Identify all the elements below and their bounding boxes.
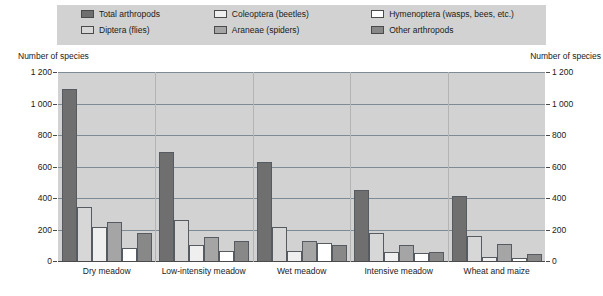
- y-axis-tick-left: [53, 198, 57, 199]
- bar-group: [253, 72, 350, 261]
- legend-item-diptera: Diptera (flies): [81, 25, 214, 35]
- bar-group: [350, 72, 447, 261]
- bar[interactable]: [332, 245, 347, 261]
- y-axis-tick-right: [546, 261, 550, 262]
- bar-set: [62, 72, 152, 261]
- legend-label: Total arthropods: [99, 9, 160, 19]
- bar[interactable]: [414, 253, 429, 261]
- y-axis-tick-right: [546, 72, 550, 73]
- y-axis-label-left: 800: [8, 130, 52, 140]
- bar[interactable]: [77, 207, 92, 261]
- y-axis-tick-left: [53, 135, 57, 136]
- y-axis-label-left: 400: [8, 193, 52, 203]
- legend-label: Diptera (flies): [99, 25, 150, 35]
- y-axis-label-left: 600: [8, 162, 52, 172]
- y-axis-label-right: 1 200: [552, 67, 596, 77]
- bar[interactable]: [482, 257, 497, 261]
- y-axis-label-right: 0: [552, 256, 596, 266]
- y-axis-tick-left: [53, 230, 57, 231]
- legend-row-top: Total arthropods Coleoptera (beetles) Hy…: [81, 9, 546, 25]
- y-axis-label-left: 0: [8, 256, 52, 266]
- y-axis-label-left: 1 000: [8, 99, 52, 109]
- bar-group: [58, 72, 155, 261]
- y-axis-tick-right: [546, 104, 550, 105]
- bar[interactable]: [219, 251, 234, 261]
- legend-label: Araneae (spiders): [232, 25, 300, 35]
- bar[interactable]: [62, 89, 77, 261]
- legend-item-hymenoptera: Hymenoptera (wasps, bees, etc.): [371, 9, 546, 19]
- y-axis-tick-right: [546, 230, 550, 231]
- bar[interactable]: [384, 252, 399, 261]
- y-axis-label-left: 200: [8, 225, 52, 235]
- bar[interactable]: [497, 244, 512, 261]
- legend-item-coleoptera: Coleoptera (beetles): [214, 9, 371, 19]
- legend-item-araneae: Araneae (spiders): [214, 25, 371, 35]
- bar[interactable]: [429, 252, 444, 261]
- legend-label: Coleoptera (beetles): [232, 9, 309, 19]
- y-axis-caption-left: Number of species: [18, 51, 89, 61]
- bar[interactable]: [369, 233, 384, 261]
- bar[interactable]: [287, 251, 302, 261]
- bar-set: [257, 72, 347, 261]
- legend-swatch-icon: [214, 26, 227, 34]
- bar[interactable]: [122, 248, 137, 261]
- bar[interactable]: [399, 245, 414, 261]
- bar[interactable]: [137, 233, 152, 261]
- x-axis-baseline: [58, 261, 545, 262]
- x-axis-category-label: Wet meadow: [253, 266, 350, 276]
- legend-label: Other arthropods: [389, 25, 453, 35]
- x-axis-category-label: Wheat and maize: [448, 266, 545, 276]
- bar[interactable]: [354, 190, 369, 261]
- legend-swatch-icon: [81, 10, 94, 18]
- bar[interactable]: [512, 258, 527, 261]
- x-axis-category-label: Intensive meadow: [350, 266, 447, 276]
- legend-swatch-icon: [214, 10, 227, 18]
- bar[interactable]: [467, 236, 482, 261]
- bar-set: [354, 72, 444, 261]
- bar[interactable]: [174, 220, 189, 261]
- bar-set: [159, 72, 249, 261]
- y-axis-tick-left: [53, 167, 57, 168]
- y-axis-caption-right: Number of species: [530, 51, 601, 61]
- x-axis-category-label: Dry meadow: [58, 266, 155, 276]
- y-axis-tick-left: [53, 261, 57, 262]
- chart-legend: Total arthropods Coleoptera (beetles) Hy…: [57, 5, 546, 45]
- bar[interactable]: [159, 152, 174, 261]
- bar[interactable]: [107, 222, 122, 261]
- bar[interactable]: [527, 254, 542, 261]
- plot-area: Dry meadowLow-intensity meadowWet meadow…: [58, 72, 545, 262]
- legend-item-total-arthropods: Total arthropods: [81, 9, 214, 19]
- legend-label: Hymenoptera (wasps, bees, etc.): [389, 9, 514, 19]
- bar[interactable]: [317, 243, 332, 261]
- bar[interactable]: [189, 245, 204, 261]
- y-axis-label-right: 200: [552, 225, 596, 235]
- bar[interactable]: [257, 162, 272, 261]
- bar-group: [155, 72, 252, 261]
- legend-item-other-arthropods: Other arthropods: [371, 25, 546, 35]
- bar[interactable]: [272, 227, 287, 261]
- bar-group: [448, 72, 545, 261]
- y-axis-tick-left: [53, 72, 57, 73]
- y-axis-tick-right: [546, 167, 550, 168]
- legend-swatch-icon: [81, 26, 94, 34]
- y-axis-label-left: 1 200: [8, 67, 52, 77]
- y-axis-label-right: 400: [552, 193, 596, 203]
- legend-row-bottom: Diptera (flies) Araneae (spiders) Other …: [81, 25, 546, 41]
- y-axis-label-right: 800: [552, 130, 596, 140]
- bar-set: [452, 72, 542, 261]
- legend-swatch-icon: [371, 10, 384, 18]
- bar[interactable]: [92, 227, 107, 261]
- y-axis-tick-right: [546, 135, 550, 136]
- bar[interactable]: [234, 241, 249, 261]
- bar[interactable]: [302, 241, 317, 261]
- x-axis-category-label: Low-intensity meadow: [155, 266, 252, 276]
- y-axis-label-right: 600: [552, 162, 596, 172]
- y-axis-label-right: 1 000: [552, 99, 596, 109]
- bar[interactable]: [204, 237, 219, 261]
- y-axis-tick-right: [546, 198, 550, 199]
- bar[interactable]: [452, 196, 467, 261]
- legend-swatch-icon: [371, 26, 384, 34]
- chart-figure: Total arthropods Coleoptera (beetles) Hy…: [0, 0, 603, 296]
- y-axis-tick-left: [53, 104, 57, 105]
